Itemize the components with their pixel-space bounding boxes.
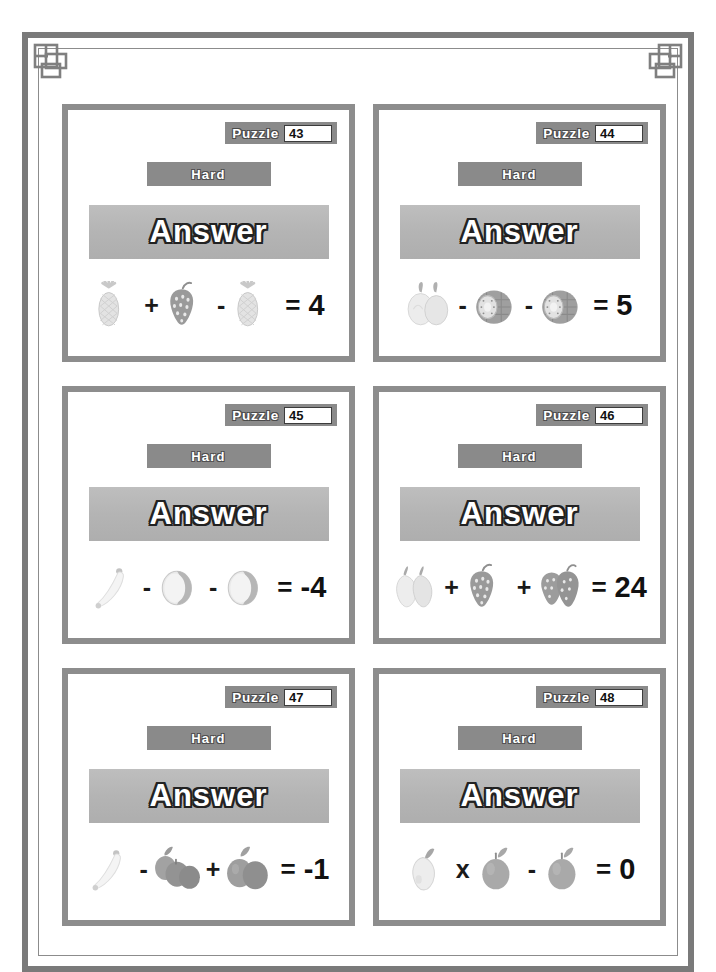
equation-operator: + [205, 857, 222, 882]
coconut-half-icon [157, 558, 203, 616]
equation-operator: - [527, 857, 537, 882]
equation-result: 0 [619, 853, 635, 886]
pineapple-icon [92, 276, 138, 334]
strawberry-icon [165, 276, 211, 334]
equation-operator: x [455, 857, 471, 882]
difficulty-badge: Hard [147, 162, 271, 186]
difficulty-badge: Hard [458, 162, 582, 186]
answer-box[interactable]: Answer [89, 487, 329, 541]
equation-result: -4 [301, 571, 327, 604]
puzzle-number-field[interactable]: 46 [595, 407, 643, 424]
answer-label: Answer [461, 778, 579, 814]
equation-row: - + =-1 [78, 836, 339, 902]
puzzle-number-field[interactable]: 48 [595, 689, 643, 706]
page-frame: Puzzle43HardAnswer + - [22, 32, 694, 972]
equation-operator: - [139, 857, 149, 882]
equation-operator: - [524, 293, 534, 318]
apple-icon [542, 840, 588, 898]
puzzle-number-field[interactable]: 43 [284, 125, 332, 142]
puzzle-number-tag: Puzzle46 [536, 404, 648, 426]
puzzle-grid: Puzzle43HardAnswer + - [62, 104, 666, 926]
equation-operator: - [208, 575, 218, 600]
puzzle-number-tag: Puzzle44 [536, 122, 648, 144]
strawberry-pair-icon [537, 558, 583, 616]
answer-box[interactable]: Answer [400, 769, 640, 823]
equals-sign: = [590, 290, 611, 321]
equation-row: + + =24 [389, 554, 650, 620]
equation-row: - - =-4 [78, 554, 339, 620]
answer-label: Answer [150, 778, 268, 814]
answer-box[interactable]: Answer [89, 205, 329, 259]
equation-operator: - [142, 575, 152, 600]
equation-operator: + [516, 575, 533, 600]
pear-icon [404, 840, 450, 898]
puzzle-number-tag: Puzzle43 [225, 122, 337, 144]
puzzle-label: Puzzle [232, 408, 279, 423]
equation-result: 5 [616, 289, 632, 322]
kiwi-half-icon [539, 276, 585, 334]
equation-result: 4 [308, 289, 324, 322]
puzzle-label: Puzzle [543, 408, 590, 423]
equation-result: 24 [615, 571, 647, 604]
lychee-pair-icon [407, 276, 453, 334]
difficulty-badge: Hard [147, 726, 271, 750]
puzzle-label: Puzzle [232, 126, 279, 141]
equals-sign: = [593, 854, 614, 885]
pineapple-icon [231, 276, 277, 334]
puzzle-number-tag: Puzzle48 [536, 686, 648, 708]
puzzle-number-tag: Puzzle45 [225, 404, 337, 426]
equals-sign: = [274, 572, 295, 603]
puzzle-number-field[interactable]: 45 [284, 407, 332, 424]
apple-icon [476, 840, 522, 898]
puzzle-number-tag: Puzzle47 [225, 686, 337, 708]
equals-sign: = [277, 854, 298, 885]
difficulty-badge: Hard [458, 726, 582, 750]
equation-operator: + [143, 293, 160, 318]
apple-pair-icon [226, 840, 272, 898]
equation-operator: - [458, 293, 468, 318]
answer-label: Answer [150, 496, 268, 532]
answer-label: Answer [150, 214, 268, 250]
answer-box[interactable]: Answer [400, 487, 640, 541]
puzzle-card[interactable]: Puzzle46HardAnswer + + [373, 386, 666, 644]
puzzle-number-field[interactable]: 44 [595, 125, 643, 142]
answer-box[interactable]: Answer [89, 769, 329, 823]
banana-icon [88, 840, 134, 898]
equals-sign: = [282, 290, 303, 321]
banana-icon [91, 558, 137, 616]
coconut-half-icon [223, 558, 269, 616]
strawberry-icon [465, 558, 511, 616]
puzzle-card[interactable]: Puzzle44HardAnswer - - [373, 104, 666, 362]
answer-box[interactable]: Answer [400, 205, 640, 259]
puzzle-card[interactable]: Puzzle45HardAnswer - - =-4 [62, 386, 355, 644]
pear-pair-icon [392, 558, 438, 616]
equation-operator: - [216, 293, 226, 318]
equation-row: + - =4 [78, 272, 339, 338]
puzzle-card[interactable]: Puzzle47HardAnswer - + =-1 [62, 668, 355, 926]
equation-operator: + [443, 575, 460, 600]
apple-triple-icon [154, 840, 200, 898]
equation-row: - - =5 [389, 272, 650, 338]
equation-row: x - =0 [389, 836, 650, 902]
puzzle-label: Puzzle [232, 690, 279, 705]
puzzle-label: Puzzle [543, 690, 590, 705]
puzzle-card[interactable]: Puzzle43HardAnswer + - [62, 104, 355, 362]
answer-label: Answer [461, 214, 579, 250]
puzzle-card[interactable]: Puzzle48HardAnswer x - =0 [373, 668, 666, 926]
kiwi-half-icon [473, 276, 519, 334]
difficulty-badge: Hard [458, 444, 582, 468]
corner-ornament-top-left [32, 42, 78, 88]
difficulty-badge: Hard [147, 444, 271, 468]
puzzle-number-field[interactable]: 47 [284, 689, 332, 706]
corner-ornament-top-right [638, 42, 684, 88]
equation-result: -1 [304, 853, 330, 886]
equals-sign: = [588, 572, 609, 603]
answer-label: Answer [461, 496, 579, 532]
puzzle-label: Puzzle [543, 126, 590, 141]
